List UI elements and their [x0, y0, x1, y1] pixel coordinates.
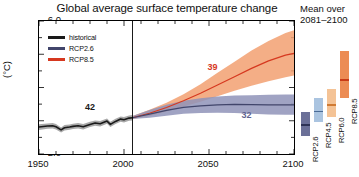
mean-bar-label: RCP4.5	[324, 123, 333, 148]
x-tick-label: 1950	[15, 158, 61, 169]
legend-item-rcp85[interactable]: RCP8.5	[48, 55, 96, 64]
mean-bar-rcp45[interactable]	[314, 98, 323, 123]
mean-bar-label: RCP8.5	[350, 98, 359, 123]
chart-legend: historicalRCP2.6RCP8.5	[48, 33, 96, 66]
mean-bar-median-line	[301, 124, 310, 126]
annotation-39: 39	[207, 62, 217, 72]
y-axis-label: (°C)	[1, 61, 12, 78]
mean-bar-label: RCP6.0	[337, 118, 346, 143]
legend-item-historical[interactable]: historical	[48, 33, 96, 42]
legend-swatch	[48, 58, 65, 61]
x-tick-label: 2000	[100, 158, 146, 169]
legend-swatch	[48, 36, 65, 39]
mean-caption-line-1: Mean over	[300, 4, 359, 15]
mean-bar-median-line	[314, 111, 323, 113]
mean-bar-median-line	[340, 79, 349, 81]
mean-caption-line-2: 2081–2100	[300, 15, 359, 26]
mean-bars-group: RCP2.6RCP4.5RCP6.0RCP8.5	[297, 25, 359, 160]
legend-label: RCP8.5	[69, 55, 94, 64]
mean-over-panel: Mean over 2081–2100 RCP2.6RCP4.5RCP6.0RC…	[297, 4, 359, 177]
annotation-42: 42	[85, 102, 95, 112]
page-title: Global average surface temperature chang…	[38, 2, 296, 14]
mean-panel-caption: Mean over 2081–2100	[297, 4, 359, 25]
mean-bar-label: RCP2.6	[311, 136, 320, 161]
mean-bar-rcp60[interactable]	[327, 89, 336, 117]
legend-label: historical	[69, 33, 96, 42]
legend-swatch	[48, 47, 65, 50]
annotation-32: 32	[241, 110, 251, 120]
x-tick-label: 2050	[185, 158, 231, 169]
temperature-change-figure: Global average surface temperature chang…	[0, 0, 359, 177]
mean-bar-median-line	[327, 104, 336, 106]
legend-item-rcp26[interactable]: RCP2.6	[48, 44, 96, 53]
mean-bar-rcp85[interactable]	[340, 51, 349, 98]
mean-bar-rcp26[interactable]	[301, 112, 310, 135]
legend-label: RCP2.6	[69, 44, 94, 53]
